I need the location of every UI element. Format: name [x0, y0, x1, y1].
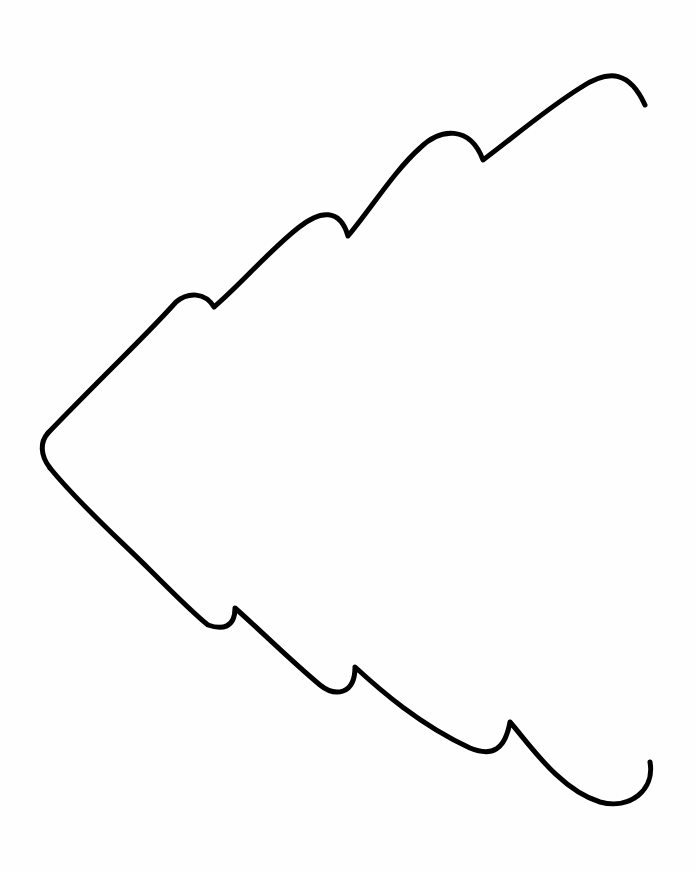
drawing-canvas: [0, 0, 695, 872]
lower-scalloped-edge: [50, 468, 651, 804]
wavy-outline-drawing: [0, 0, 695, 872]
left-tip: [42, 433, 50, 468]
upper-scalloped-edge: [48, 76, 645, 433]
